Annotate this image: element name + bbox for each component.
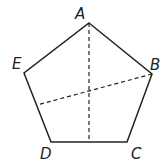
dashed-segment-from-b xyxy=(37,74,152,105)
vertex-label-a: A xyxy=(74,5,85,23)
vertex-label-b: B xyxy=(150,56,160,74)
vertex-label-e: E xyxy=(12,55,22,73)
pentagon-diagram: A B C D E xyxy=(0,0,166,165)
pentagon-outline xyxy=(24,23,152,142)
vertex-label-d: D xyxy=(40,145,52,163)
pentagon-svg: A B C D E xyxy=(0,0,166,165)
vertex-label-c: C xyxy=(131,145,142,163)
